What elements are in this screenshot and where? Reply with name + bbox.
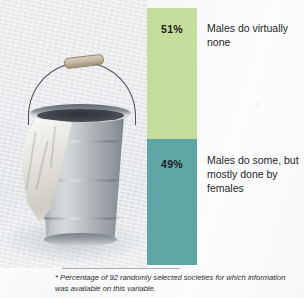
figure-container: 51% 49% Males do virtually none Males do…: [0, 0, 304, 298]
bar-segment-value-label: 51%: [147, 23, 197, 35]
bucket-base: [44, 233, 117, 246]
bar-segment-value-label: 49%: [147, 158, 197, 170]
bucket-photograph: [0, 0, 148, 268]
footnote-divider: [62, 268, 180, 269]
bar-category-label-bottom: Males do some, but mostly done by female…: [207, 153, 302, 195]
bar-segment-males-do-some: 49%: [147, 139, 197, 265]
footnote-text: * Percentage of 92 randomly selected soc…: [55, 273, 295, 294]
bar-segment-males-do-virtually-none: 51%: [147, 8, 197, 139]
bar-category-label-top: Males do virtually none: [207, 21, 302, 49]
stacked-bar: 51% 49%: [147, 8, 197, 265]
bucket-band: [33, 217, 128, 220]
